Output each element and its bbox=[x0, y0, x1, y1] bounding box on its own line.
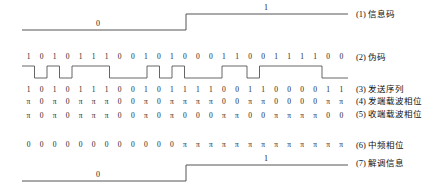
info-code-waveform bbox=[0, 0, 448, 190]
dsss-timing-figure: 0 1 (1) 信息码 1010111001010001100111100 (2… bbox=[0, 0, 448, 190]
